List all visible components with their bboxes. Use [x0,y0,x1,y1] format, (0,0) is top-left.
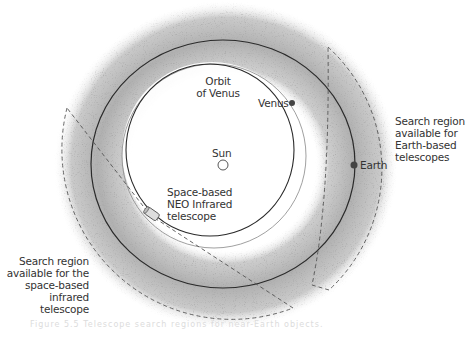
earth-label: Earth [360,159,387,171]
earth-search-region-label: Search region available for Earth-based … [395,115,465,163]
sun-label: Sun [212,147,231,159]
figure-caption: Figure 5.5 Telescope search regions for … [30,320,460,330]
venus-label: Venus [258,97,289,109]
earth-icon [351,162,358,169]
space-search-region-label: Search region available for the space-ba… [0,255,89,315]
orbit-of-venus-label: Orbit of Venus [188,75,248,99]
space-telescope-label: Space-based NEO Infrared telescope [167,186,232,222]
sun-icon [218,160,228,170]
venus-icon [289,100,295,106]
